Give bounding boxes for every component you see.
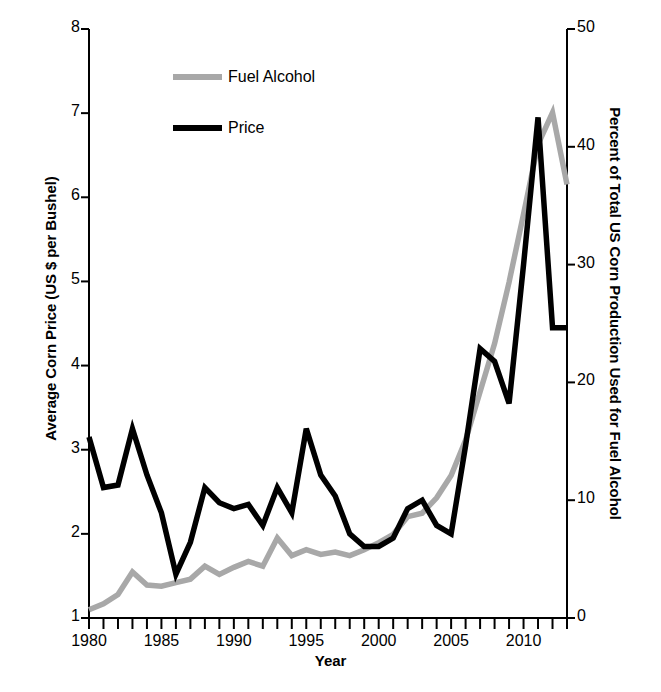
x-tick-2010: 2010 — [494, 632, 554, 650]
y-right-tick-50: 50 — [577, 18, 595, 36]
legend-item-price: Price — [228, 119, 264, 137]
y-axis-right-title: Percent of Total US Corn Production Used… — [607, 104, 624, 524]
x-axis-title: Year — [0, 652, 661, 669]
x-tick-1980: 1980 — [59, 632, 119, 650]
x-tick-1985: 1985 — [131, 632, 191, 650]
plot-canvas — [0, 0, 661, 692]
x-tick-2000: 2000 — [349, 632, 409, 650]
legend-item-fuel-alcohol: Fuel Alcohol — [228, 68, 315, 86]
y-axis-left-title: Average Corn Price (US $ per Bushel) — [42, 99, 59, 519]
y-left-tick-2: 2 — [40, 523, 80, 541]
legend-swatches — [173, 77, 222, 128]
axes — [81, 29, 575, 629]
y-right-tick-30: 30 — [577, 254, 595, 272]
x-tick-1995: 1995 — [276, 632, 336, 650]
y-right-tick-10: 10 — [577, 489, 595, 507]
data-series — [89, 113, 567, 610]
y-left-tick-1: 1 — [40, 607, 80, 625]
y-right-tick-40: 40 — [577, 136, 595, 154]
x-tick-1990: 1990 — [204, 632, 264, 650]
y-right-tick-20: 20 — [577, 371, 595, 389]
y-right-tick-0: 0 — [577, 607, 586, 625]
corn-price-fuel-alcohol-chart: 12345678 01020304050 1980198519901995200… — [0, 0, 661, 692]
y-left-tick-8: 8 — [40, 18, 80, 36]
x-tick-2005: 2005 — [421, 632, 481, 650]
